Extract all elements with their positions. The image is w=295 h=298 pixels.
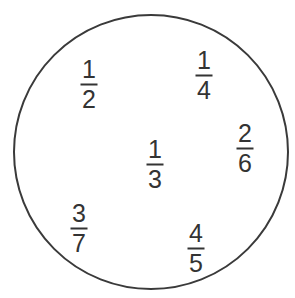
denominator: 6 [237,150,253,176]
denominator: 7 [71,230,87,256]
denominator: 4 [196,77,212,103]
denominator: 3 [147,166,163,192]
fraction-four-fifths: 45 [188,221,205,276]
numerator: 1 [196,48,212,74]
numerator: 2 [237,121,253,147]
fraction-three-sevenths: 37 [71,201,88,256]
fraction-set-diagram: 121426133745 [0,0,295,298]
numerator: 1 [147,137,163,163]
fraction-two-sixths: 26 [237,121,254,176]
fraction-one-half: 12 [81,57,98,112]
denominator: 2 [81,86,97,112]
fraction-one-third: 13 [147,137,164,192]
numerator: 3 [71,201,87,227]
fraction-one-quarter: 14 [196,48,213,103]
numerator: 1 [81,57,97,83]
denominator: 5 [188,250,204,276]
numerator: 4 [188,221,204,247]
